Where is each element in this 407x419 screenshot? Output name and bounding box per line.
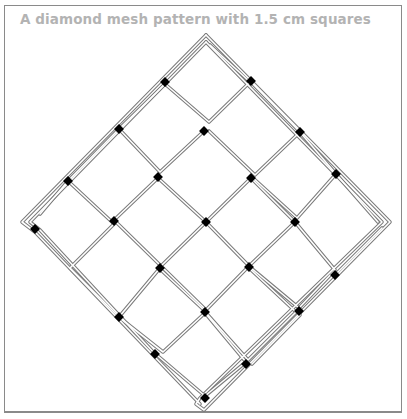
mesh-strand-core — [336, 174, 378, 222]
mesh-strand-core — [251, 222, 335, 308]
mesh-strand — [68, 129, 158, 222]
mesh-strand-core — [335, 228, 382, 275]
mesh-strand — [158, 314, 246, 396]
mesh-strand — [165, 45, 250, 122]
diamond-mesh-diagram — [0, 0, 407, 419]
mesh-strand-core — [163, 222, 249, 310]
mesh-strand — [119, 84, 204, 172]
mesh-strand — [206, 178, 295, 266]
mesh-strand-core — [206, 178, 295, 266]
mesh-strand-core — [209, 82, 300, 175]
mesh-strand-core — [119, 84, 204, 172]
mesh-strand-core — [158, 314, 246, 396]
mesh-strand — [70, 222, 160, 317]
mesh-strand-core — [70, 222, 160, 317]
mesh-strand — [253, 132, 336, 218]
mesh-strand-core — [120, 270, 206, 352]
mesh-strand — [251, 222, 335, 308]
mesh-strand — [116, 178, 206, 266]
mesh-strand — [163, 222, 249, 310]
mesh-strand-core — [116, 178, 206, 266]
mesh-strand — [209, 82, 300, 175]
mesh-strand-core — [253, 132, 336, 218]
mesh-strand-core — [68, 129, 158, 222]
mesh-strand — [120, 270, 206, 352]
mesh-knot — [30, 224, 40, 234]
mesh-strand-core — [165, 45, 250, 122]
